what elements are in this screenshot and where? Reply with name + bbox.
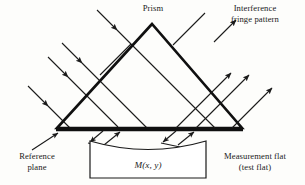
prism-outline: [57, 24, 242, 128]
outgoing-ray-1b: [211, 73, 231, 93]
reference-plane-label: Reference plane: [2, 151, 72, 172]
reflected-ray-bottom-right: [161, 143, 180, 147]
reflected-ray-up-right: [178, 132, 194, 145]
incoming-ray-4: [28, 86, 48, 106]
incoming-ray-3: [48, 57, 68, 77]
prism-label: Prism: [118, 3, 188, 14]
figure-root: Prism Interference fringe pattern Refere…: [0, 0, 305, 185]
surface-function-label: M(x, y): [112, 160, 184, 171]
measurement-flat-label: Measurement flat (test flat): [206, 151, 304, 172]
interference-fringe-pattern-label: Interference fringe pattern: [207, 3, 303, 24]
reflected-ray-up-left: [104, 132, 120, 145]
outgoing-ray-group: [176, 13, 272, 128]
incoming-ray-group: [28, 10, 152, 129]
internal-ray-b: [100, 44, 131, 75]
internal-ray-c: [173, 13, 205, 45]
incoming-ray-1b: [117, 30, 152, 65]
reflected-ray-down-right: [163, 131, 176, 142]
incoming-ray-2: [62, 43, 82, 63]
outgoing-ray-1: [176, 93, 211, 128]
prism-triangle: [57, 24, 242, 128]
reference-plane-pointer: [32, 133, 58, 150]
outgoing-ray-2b: [231, 75, 249, 93]
incoming-ray-1: [97, 10, 117, 30]
incoming-ray-2b: [82, 63, 148, 129]
outgoing-ray-3: [232, 102, 258, 128]
outgoing-ray-3b: [258, 88, 272, 102]
incoming-ray-3b: [68, 77, 118, 127]
reflected-ray-down-left: [90, 131, 103, 142]
